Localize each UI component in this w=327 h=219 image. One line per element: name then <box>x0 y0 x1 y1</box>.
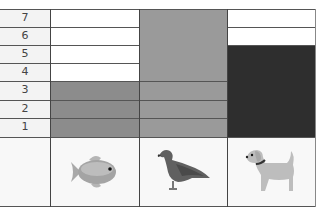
gridline <box>227 27 316 28</box>
y-tick-2: 2 <box>0 100 50 118</box>
gridline <box>227 45 316 46</box>
y-tick-3: 3 <box>0 81 50 99</box>
y-tick-7: 7 <box>0 9 50 27</box>
y-tick-5: 5 <box>0 45 50 63</box>
gridline <box>0 9 316 10</box>
gridline <box>0 100 227 101</box>
fish-icon <box>69 152 121 192</box>
gridline <box>0 81 227 82</box>
gridline <box>0 27 139 28</box>
eagle-icon <box>154 148 212 196</box>
bar-fish <box>50 81 139 137</box>
y-tick-1: 1 <box>0 118 50 136</box>
gridline <box>0 45 139 46</box>
gridline <box>0 118 227 119</box>
pictograph-bar-chart: 7 6 5 4 3 2 1 <box>0 9 316 207</box>
gridline <box>0 63 139 64</box>
y-tick-4: 4 <box>0 63 50 81</box>
y-tick-6: 6 <box>0 27 50 45</box>
dog-icon <box>243 147 301 197</box>
category-fish <box>50 137 139 207</box>
bar-dog <box>227 45 316 137</box>
category-eagle <box>139 137 227 207</box>
category-dog <box>227 137 316 207</box>
